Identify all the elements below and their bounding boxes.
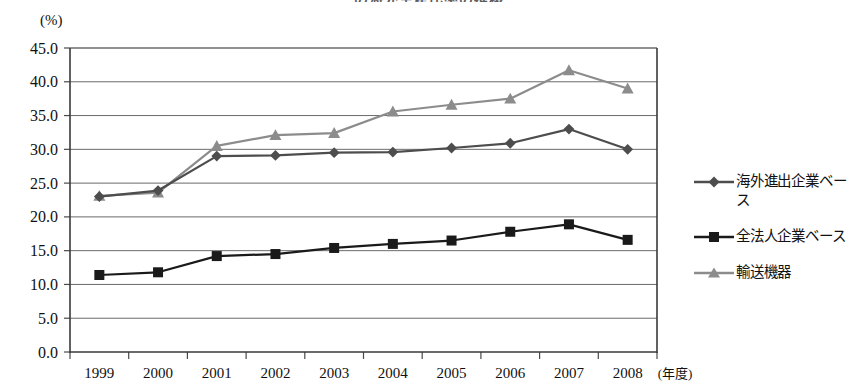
square-marker-icon <box>694 228 734 246</box>
svg-text:2006: 2006 <box>495 365 526 381</box>
legend-item-1[interactable]: 全法人企業ベース <box>694 227 858 246</box>
series-square <box>94 219 632 280</box>
svg-text:2001: 2001 <box>202 365 232 381</box>
svg-text:2002: 2002 <box>260 365 290 381</box>
legend-item-0[interactable]: 海外進出企業ベース <box>694 172 858 210</box>
svg-text:2000: 2000 <box>143 365 173 381</box>
series-diamond <box>94 124 633 202</box>
legend-label-2: 輸送機器 <box>736 263 791 282</box>
data-series-layer <box>93 64 633 280</box>
gridlines <box>70 48 657 318</box>
legend-label-0: 海外進出企業ベース <box>736 172 858 210</box>
chart-legend: 海外進出企業ベース 全法人企業ベース 輸送機器 <box>694 172 858 299</box>
svg-text:45.0: 45.0 <box>30 40 58 57</box>
svg-text:10.0: 10.0 <box>30 276 58 293</box>
chart-container: の海外生産比率の推移 (%) 0.05.010.015.020.025.030.… <box>0 0 858 390</box>
svg-text:1999: 1999 <box>84 365 114 381</box>
legend-label-1: 全法人企業ベース <box>736 227 845 246</box>
svg-text:30.0: 30.0 <box>30 141 58 158</box>
svg-text:2004: 2004 <box>378 365 409 381</box>
x-axis-tick-labels: 1999200020012002200320042005200620072008 <box>84 365 642 381</box>
svg-text:2007: 2007 <box>554 365 585 381</box>
y-axis-tick-labels: 0.05.010.015.020.025.030.035.040.045.0 <box>30 40 58 361</box>
svg-text:35.0: 35.0 <box>30 107 58 124</box>
legend-item-2[interactable]: 輸送機器 <box>694 263 858 282</box>
svg-text:5.0: 5.0 <box>38 310 58 327</box>
svg-text:2003: 2003 <box>319 365 349 381</box>
svg-text:15.0: 15.0 <box>30 242 58 259</box>
diamond-marker-icon <box>694 173 734 191</box>
svg-text:2008: 2008 <box>613 365 643 381</box>
svg-text:2005: 2005 <box>437 365 467 381</box>
svg-text:20.0: 20.0 <box>30 208 58 225</box>
y-axis-ticks <box>64 48 70 352</box>
plot-frame <box>70 48 657 353</box>
x-axis-unit-label: (年度) <box>658 366 693 381</box>
svg-text:40.0: 40.0 <box>30 73 58 90</box>
triangle-marker-icon <box>694 264 734 282</box>
x-axis-ticks <box>70 352 657 359</box>
svg-text:25.0: 25.0 <box>30 175 58 192</box>
svg-text:0.0: 0.0 <box>38 344 58 361</box>
